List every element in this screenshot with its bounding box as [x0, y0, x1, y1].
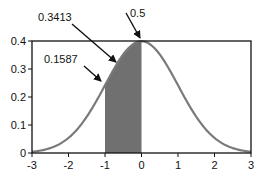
x-tick-label: 2 [211, 159, 217, 171]
x-tick-label: -1 [100, 159, 110, 171]
annotation-label: 0.5 [130, 7, 145, 19]
annotation-label: 0.1587 [44, 53, 78, 65]
y-tick-label: 0.2 [11, 91, 26, 103]
y-tick-label: 0 [20, 147, 26, 159]
x-tick-label: 1 [175, 159, 181, 171]
x-tick-label: -3 [27, 159, 37, 171]
x-tick-label: 3 [248, 159, 254, 171]
y-tick-label: 0.1 [11, 119, 26, 131]
normal-distribution-chart: -3-2-1012300.10.20.30.4 0.50.34130.1587 [0, 0, 263, 177]
annotation-arrow [72, 24, 116, 62]
y-tick-label: 0.3 [11, 63, 26, 75]
y-tick-label: 0.4 [11, 35, 26, 47]
x-tick-label: 0 [138, 159, 144, 171]
annotation-arrow [84, 66, 101, 81]
x-tick-label: -2 [64, 159, 74, 171]
annotation-label: 0.3413 [38, 11, 72, 23]
